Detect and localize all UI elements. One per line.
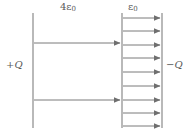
permittivity-label-right-region: ε0 — [128, 2, 138, 13]
figure-canvas — [0, 0, 187, 134]
field-arrows-right-region — [123, 18, 160, 126]
capacitor-dielectric-figure: 4ε0 ε0 +Q −Q — [0, 0, 187, 134]
capacitor-plates — [33, 13, 162, 128]
charge-label-positive: +Q — [6, 60, 23, 70]
permittivity-label-left-region: 4ε0 — [60, 2, 76, 13]
field-arrows-left-region — [34, 43, 120, 100]
permittivity-left-subscript: 0 — [72, 5, 76, 13]
permittivity-right-subscript: 0 — [133, 5, 137, 13]
charge-label-negative: −Q — [166, 60, 183, 70]
permittivity-left-value: 4ε — [60, 1, 72, 12]
